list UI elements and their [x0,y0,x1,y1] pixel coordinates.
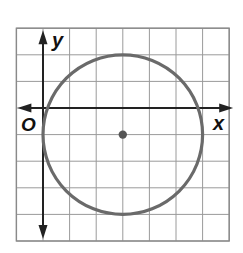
coordinate-plane-figure: y x O [0,0,243,253]
y-axis-arrow-down-icon [39,225,48,239]
y-axis-arrow-up-icon [39,30,48,44]
circle-center-point [119,130,127,138]
origin-label: O [21,114,36,135]
x-axis-label: x [212,112,225,134]
y-axis-label: y [51,29,64,51]
x-axis-arrow-left-icon [17,104,31,113]
